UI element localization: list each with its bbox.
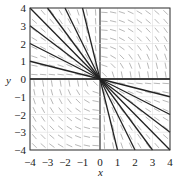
y-tick: 4 [21,2,27,14]
x-tick: −3 [42,156,54,168]
slope-field-chart: −4−3−2−101234 −4−3−2−101234 x y [0,0,179,182]
y-tick: 0 [21,73,27,85]
x-tick: 4 [167,156,173,168]
x-axis-label: x [97,166,103,178]
y-tick: 3 [21,20,27,32]
x-tick: −2 [59,156,71,168]
y-tick: 2 [21,38,27,50]
y-tick: −1 [14,91,26,103]
y-axis-label: y [5,74,11,86]
x-tick: −1 [77,156,89,168]
x-tick: 2 [132,156,138,168]
y-tick: −3 [14,126,26,138]
x-tick: −4 [24,156,36,168]
y-tick: 1 [21,55,27,67]
y-tick: −4 [14,144,26,156]
x-tick: 3 [150,156,156,168]
x-tick: 1 [115,156,121,168]
y-tick-labels: −4−3−2−101234 [14,2,26,156]
y-tick: −2 [14,109,26,121]
